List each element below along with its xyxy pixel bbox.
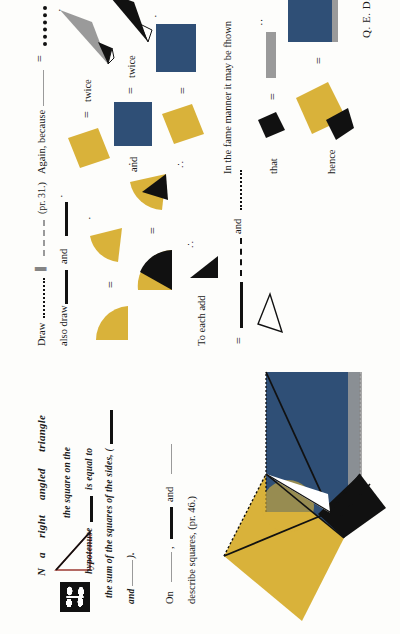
- demo-and-label-1: and: [128, 157, 139, 172]
- equals-symbol-row2: =: [146, 227, 161, 234]
- dot-mark-demo-a: ·: [54, 8, 65, 12]
- therefore-dots-b: ∴: [176, 161, 187, 168]
- sector-figure-yellow-2: [88, 220, 128, 266]
- equals-symbol-demo5: =: [312, 57, 327, 64]
- enunciation-word-a: a: [35, 552, 47, 558]
- equals-symbol-row3: =: [232, 337, 247, 344]
- demo-twice-label-1: twice: [82, 79, 93, 102]
- construction-comma: ,: [164, 546, 175, 549]
- enunciation-word-triangle: triangle: [35, 415, 47, 452]
- rect-figure-grey-demo: [262, 30, 280, 80]
- decorative-initial-block: [60, 582, 90, 612]
- enunciation-word-and: and: [126, 589, 136, 604]
- construction-also-and-label: and: [58, 249, 69, 264]
- magnitude-dotted-again: [43, 6, 47, 46]
- square-figure-blue-final: [286, 0, 342, 44]
- demo-same-manner-label: In the fame manner it may be fhown: [222, 21, 233, 174]
- enunciation-word-right: right: [35, 515, 47, 538]
- construction-and-label-2: and: [232, 219, 243, 234]
- triangle-pair-figure-2: [104, 0, 154, 46]
- magnitude-dotted-black: [43, 278, 45, 318]
- magnitude-rule-again-grey: [43, 70, 44, 106]
- book-page-sheet: N a right angled triangle the square on …: [0, 0, 400, 634]
- page-canvas: N a right angled triangle the square on …: [0, 0, 400, 634]
- demo-that-label: that: [268, 158, 279, 174]
- enunciation-words-is-equal-to: is equal to: [84, 448, 94, 490]
- enunciation-closing-paren: ).: [126, 552, 136, 558]
- enunciation-word-hypotenuse: hypotenuse: [84, 528, 94, 574]
- equals-symbol-demo3: =: [176, 87, 191, 94]
- square-figure-blue-demo: [112, 100, 154, 148]
- demo-twice-label-2: twice: [126, 55, 137, 78]
- enunciation-word-n: N: [35, 568, 47, 576]
- dot-mark-demo-d: ··: [256, 19, 267, 26]
- enunciation-line-square-on-the: the square on the: [62, 447, 72, 518]
- construction-also-draw-label: also draw: [58, 305, 69, 346]
- magnitude-dashed-result: [240, 238, 242, 276]
- magnitude-rule-hypotenuse-black: [90, 496, 93, 522]
- construction-ref-31: (pr. 31.): [36, 182, 47, 214]
- dot-mark-single-a: ·: [56, 194, 67, 198]
- dot-mark-single-b: ·: [84, 216, 95, 220]
- magnitude-dotted-result: [240, 170, 242, 210]
- magnitude-rule-side-black: [110, 410, 113, 444]
- main-pythagorean-figure: [210, 372, 390, 624]
- magnitude-rule-result-black: [240, 282, 243, 328]
- magnitude-rule-side-grey: [132, 560, 133, 586]
- construction-and-label: and: [164, 487, 175, 502]
- enunciation-line-sum-of-squares: the sum of the squares of the sides, (: [104, 448, 114, 598]
- construction-to-each-add-label: To each add: [196, 295, 207, 346]
- construction-on-label: On: [164, 591, 175, 604]
- square-figure-black-small-demo: [256, 110, 288, 142]
- equals-symbol-again: =: [33, 55, 48, 62]
- magnitude-rule-on-grey: [171, 552, 172, 582]
- square-figure-blue-demo-2: [154, 22, 200, 74]
- equals-symbol-demo2: =: [124, 87, 139, 94]
- construction-parallel-symbol: ∥: [33, 266, 48, 272]
- dot-mark-demo-c: ·: [150, 14, 161, 18]
- square-figure-yellow-demo: [66, 126, 112, 172]
- triangle-figure-outline: [256, 290, 286, 334]
- magnitude-rule-on-black: [170, 507, 173, 539]
- magnitude-dashed-grey: [43, 220, 45, 256]
- square-figure-yellow-demo-2: [160, 102, 206, 148]
- enunciation-word-angled: angled: [35, 468, 47, 500]
- sector-figure-yellow-black-1: [134, 242, 176, 294]
- construction-describe-squares-label: describe squares, (pr. 46.): [186, 496, 197, 604]
- equals-symbol-demo4: =: [266, 93, 281, 100]
- qed-label: Q. E. D.: [360, 0, 372, 38]
- therefore-dots-a: ∴: [186, 241, 197, 248]
- magnitude-rule-on-grey-2: [171, 444, 172, 474]
- equals-symbol-row1: =: [104, 281, 119, 288]
- triangle-figure-black-small: [186, 252, 220, 282]
- equals-symbol-demo1: =: [80, 111, 95, 118]
- construction-draw-label: Draw: [36, 323, 47, 346]
- sector-figure-yellow-1: [92, 298, 130, 342]
- demo-hence-label: hence: [326, 150, 337, 174]
- magnitude-rule-alsodraw-black: [65, 270, 68, 304]
- demo-again-because-label: Again, because: [36, 110, 47, 174]
- magnitude-rule-alsodraw-black-2: [65, 202, 68, 236]
- square-sum-figure: [292, 72, 354, 142]
